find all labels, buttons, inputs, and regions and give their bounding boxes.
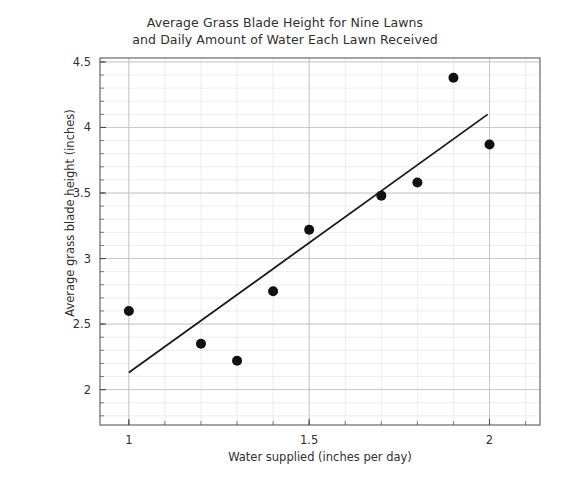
x-tick-labels: 11.52 <box>125 433 493 447</box>
y-tick-label: 4 <box>84 120 91 134</box>
minor-ticks <box>100 62 526 425</box>
x-tick-label: 1 <box>125 433 132 447</box>
trend-line <box>129 114 488 372</box>
x-axis-label: Water supplied (inches per day) <box>100 450 540 464</box>
data-point <box>412 178 422 188</box>
y-axis-label: Average grass blade height (inches) <box>63 28 77 398</box>
x-tick-label: 2 <box>486 433 493 447</box>
scatter-chart-figure: Average Grass Blade Height for Nine Lawn… <box>0 0 570 487</box>
plot-canvas: 11.52 22.533.544.5 <box>0 0 570 487</box>
data-point <box>448 73 458 83</box>
data-point <box>232 356 242 366</box>
major-ticks <box>100 62 490 425</box>
major-gridlines <box>100 58 540 425</box>
data-point <box>124 306 134 316</box>
data-point <box>268 286 278 296</box>
data-point <box>304 225 314 235</box>
y-tick-label: 3 <box>84 252 91 266</box>
x-tick-label: 1.5 <box>300 433 318 447</box>
data-point <box>376 191 386 201</box>
minor-gridlines <box>100 58 540 425</box>
data-point <box>196 339 206 349</box>
data-point <box>485 140 495 150</box>
y-tick-label: 2 <box>84 383 91 397</box>
plot-frame <box>100 58 540 425</box>
